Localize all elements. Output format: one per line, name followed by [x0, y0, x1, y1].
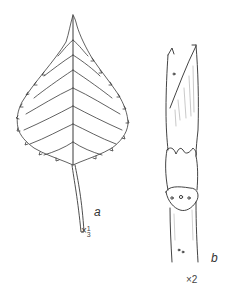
scale-fraction: 13 [87, 226, 91, 237]
leaf-drawing [0, 0, 228, 298]
twig-drawing [166, 45, 199, 262]
panel-b-scale: ×2 [186, 275, 197, 285]
panel-b-label: b [211, 252, 218, 264]
panel-a-scale: ×13 [81, 226, 91, 237]
panel-a-label: a [94, 206, 101, 218]
botanical-illustration: a ×13 b ×2 [0, 0, 228, 298]
